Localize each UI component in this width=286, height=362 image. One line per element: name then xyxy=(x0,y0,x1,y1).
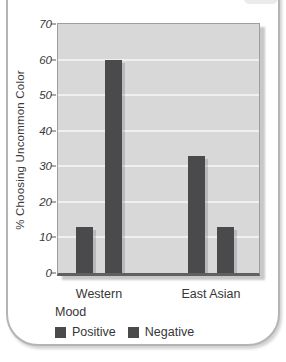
x-category-label: East Asian xyxy=(181,287,240,301)
figure: % Choosing Uncommon Color 01020304050607… xyxy=(0,0,286,362)
y-tick-label: 20 xyxy=(18,195,52,209)
plot-area xyxy=(57,23,260,276)
y-tick-label: 0 xyxy=(18,266,52,280)
y-tick-label: 10 xyxy=(18,230,52,244)
x-category-label: Western xyxy=(76,287,122,301)
legend-item-label: Negative xyxy=(145,325,194,339)
bar-east-asian-negative xyxy=(217,227,234,273)
legend-items: PositiveNegative xyxy=(55,325,194,339)
bar-western-negative xyxy=(105,60,122,273)
gridline xyxy=(58,94,259,96)
y-tick-label: 60 xyxy=(18,53,52,67)
legend-item-negative: Negative xyxy=(128,325,194,339)
bar-western-positive xyxy=(76,227,93,273)
legend-swatch xyxy=(128,327,139,338)
y-tick-label: 50 xyxy=(18,88,52,102)
y-tick-label: 70 xyxy=(18,17,52,31)
gridline xyxy=(58,201,259,203)
gridline xyxy=(58,130,259,132)
gridline xyxy=(58,59,259,61)
legend-item-label: Positive xyxy=(72,325,116,339)
legend: Mood PositiveNegative xyxy=(55,305,194,339)
legend-title: Mood xyxy=(55,305,194,319)
bar-east-asian-positive xyxy=(188,156,205,273)
bar-chart: % Choosing Uncommon Color 01020304050607… xyxy=(0,0,286,362)
legend-item-positive: Positive xyxy=(55,325,116,339)
gridline xyxy=(58,165,259,167)
legend-swatch xyxy=(55,327,66,338)
y-tick-label: 30 xyxy=(18,159,52,173)
y-tick-label: 40 xyxy=(18,124,52,138)
